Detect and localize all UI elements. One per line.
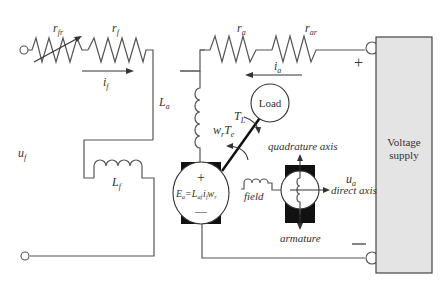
field-resistor <box>88 38 153 140</box>
quadrature-axis-label: quadrature axis <box>268 140 338 152</box>
field-terminal-top <box>20 46 28 54</box>
armature-current-label: ia <box>274 59 281 75</box>
field-inductor-label: Lf <box>111 175 123 191</box>
voltage-supply-line1: Voltage <box>387 136 421 148</box>
emf-equation: Ea=Lafifwr <box>175 188 217 200</box>
armature-label: armature <box>280 232 321 244</box>
armature-axis-arrowhead <box>297 223 303 230</box>
field-resistor-label: rf <box>112 21 121 37</box>
field-voltage-label: uf <box>18 146 28 162</box>
armature-ext-resistor-label: rar <box>305 21 318 37</box>
circuit-diagram: rfr rf if uf Lf ra rar ia La + ua Voltag… <box>0 0 447 281</box>
rheostat-label: rfr <box>53 21 64 37</box>
armature-current-arrowhead <box>245 72 253 78</box>
direct-axis-label: direct axis <box>331 184 377 196</box>
electromagnetic-torque-arrowhead <box>226 143 233 149</box>
voltage-supply-line2: supply <box>389 149 419 161</box>
direct-axis-arrowhead <box>323 187 330 193</box>
armature-plus-sign: + <box>354 54 363 71</box>
armature-inductor-label: La <box>158 95 170 111</box>
armature-resistor-label: ra <box>237 21 246 37</box>
machine-minus: — <box>194 204 208 218</box>
field-current-arrowhead <box>126 68 134 74</box>
speed-torque-label: wrTe <box>213 123 235 139</box>
armature-resistor <box>200 36 272 62</box>
load-torque-arrowhead <box>255 127 261 134</box>
field-inductor <box>30 160 154 256</box>
field-circuit <box>20 36 154 260</box>
armature-inductor <box>180 71 200 162</box>
armature-ext-resistor <box>272 36 365 62</box>
field-label: field <box>244 190 264 202</box>
load-label: Load <box>259 97 282 109</box>
load-torque-label: TL <box>234 109 246 125</box>
field-current-label: if <box>103 75 110 91</box>
armature-wire-top <box>180 50 205 71</box>
field-rheostat <box>28 38 88 62</box>
quadrature-axis-arrowhead <box>297 154 303 161</box>
machine-plus: + <box>197 170 205 185</box>
field-terminal-bottom <box>21 252 29 260</box>
